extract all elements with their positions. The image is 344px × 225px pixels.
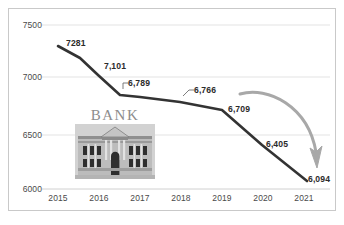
ytick-label-6000: 6000 bbox=[12, 184, 42, 194]
downward-trend-arrow bbox=[240, 92, 322, 168]
xtick-label-2015: 2015 bbox=[41, 193, 75, 203]
data-label-2015: 7281 bbox=[66, 38, 86, 48]
ytick-label-7000: 7000 bbox=[12, 72, 42, 82]
data-label-2019: 6,709 bbox=[228, 104, 250, 114]
plot-area bbox=[0, 0, 344, 225]
xtick-label-2021: 2021 bbox=[287, 193, 321, 203]
xtick-label-2018: 2018 bbox=[164, 193, 198, 203]
leader-6766 bbox=[183, 90, 194, 96]
data-label-2021: 6,094 bbox=[308, 174, 330, 184]
chart-figure: 7500 7000 6500 6000 2015 2016 2017 2018 … bbox=[0, 0, 344, 225]
xtick-label-2020: 2020 bbox=[246, 193, 280, 203]
data-label-2020: 6,405 bbox=[266, 139, 288, 149]
xtick-label-2016: 2016 bbox=[82, 193, 116, 203]
data-label-2017: 6,789 bbox=[128, 78, 150, 88]
xtick-label-2019: 2019 bbox=[205, 193, 239, 203]
data-label-2018: 6,766 bbox=[194, 85, 216, 95]
data-label-2016: 7,101 bbox=[104, 61, 126, 71]
bank-wordmark-text: BANK bbox=[72, 107, 158, 123]
bank-building-illustration bbox=[75, 124, 155, 179]
ytick-label-6500: 6500 bbox=[12, 130, 42, 140]
xtick-label-2017: 2017 bbox=[123, 193, 157, 203]
bank-building-image bbox=[75, 124, 155, 179]
bank-watermark: BANK bbox=[72, 107, 158, 179]
ytick-label-7500: 7500 bbox=[12, 20, 42, 30]
